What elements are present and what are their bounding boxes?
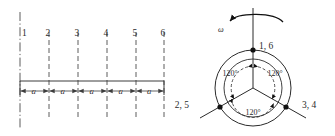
angle-label-left: 120°: [222, 69, 237, 78]
slot-label-3: 3: [75, 28, 80, 38]
right-diagram-group: ω 1, 6 2, 5 3, 4 120° 120°: [175, 8, 317, 126]
node-dot-3-4: [283, 104, 288, 109]
node-label-2-5: 2, 5: [175, 100, 190, 110]
angle-label-bottom: 120°: [245, 108, 260, 117]
angle-label-right: 120°: [267, 69, 282, 78]
left-diagram-group: 1 2 3 4 5 6: [20, 12, 166, 128]
figure-svg: 1 2 3 4 5 6: [0, 0, 335, 136]
pitch-label-5: a: [147, 86, 151, 96]
slot-label-2: 2: [46, 28, 51, 38]
rotation-arc-arrow: [230, 14, 283, 22]
node-label-3-4: 3, 4: [302, 100, 317, 110]
spoke-line-lower-right: [253, 88, 306, 118]
node-dot-1-6: [250, 47, 255, 52]
omega-label: ω: [218, 25, 224, 34]
figure-container: 1 2 3 4 5 6: [0, 0, 335, 136]
node-label-1-6: 1, 6: [259, 41, 274, 51]
dimension-group: a a a a a: [21, 86, 164, 96]
slot-label-1: 1: [22, 28, 27, 38]
node-dot-2-5: [217, 104, 222, 109]
slot-label-6: 6: [161, 28, 166, 38]
slot-label-4: 4: [104, 28, 109, 38]
pitch-label-4: a: [119, 86, 123, 96]
slot-label-5: 5: [133, 28, 138, 38]
pitch-label-3: a: [90, 86, 94, 96]
pitch-label-1: a: [32, 86, 36, 96]
pitch-label-2: a: [61, 86, 65, 96]
